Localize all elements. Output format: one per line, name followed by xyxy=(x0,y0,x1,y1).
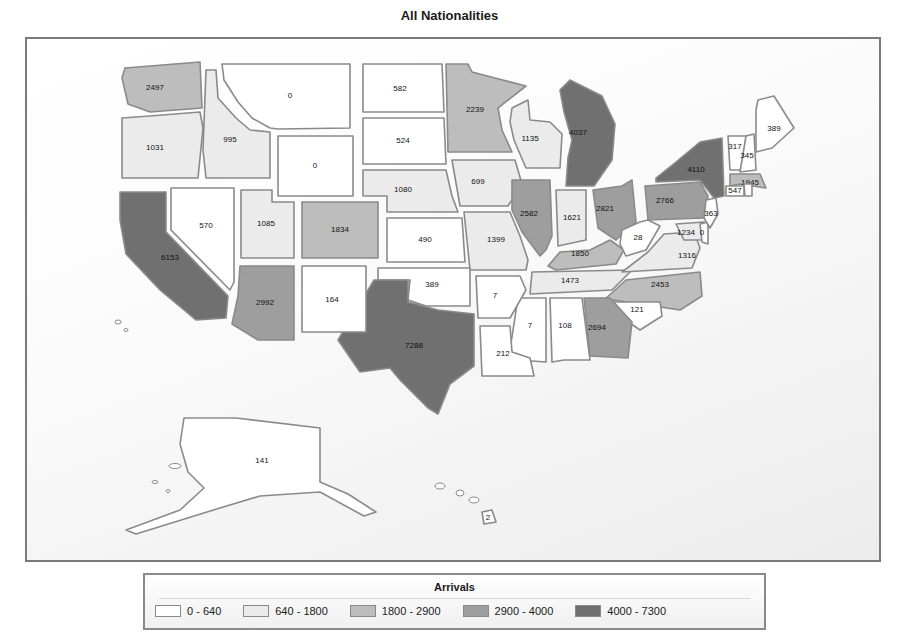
state-wa: 2497 xyxy=(122,62,202,112)
legend-label: 1800 - 2900 xyxy=(382,605,441,617)
state-value-label: 1399 xyxy=(487,235,505,244)
legend-label: 640 - 1800 xyxy=(275,605,328,617)
legend-item-bin-3: 2900 - 4000 xyxy=(463,605,554,617)
state-value-label: 345 xyxy=(740,151,754,160)
island-shape xyxy=(169,464,181,469)
state-value-label: 1085 xyxy=(257,219,275,228)
island-shape xyxy=(152,481,158,484)
state-value-label: 1316 xyxy=(678,251,696,260)
state-value-label: 363 xyxy=(704,209,718,218)
state-value-label: 582 xyxy=(393,84,407,93)
state-value-label: 28 xyxy=(634,233,643,242)
state-value-label: 2821 xyxy=(596,204,614,213)
state-mi: 4037 xyxy=(560,80,615,186)
legend-swatch xyxy=(463,605,489,617)
state-value-label: 570 xyxy=(199,221,213,230)
state-me: 389 xyxy=(756,96,794,152)
state-or: 1031 xyxy=(122,112,203,178)
state-value-label: 1135 xyxy=(521,134,539,143)
state-value-label: 108 xyxy=(558,321,572,330)
state-co: 1834 xyxy=(302,202,378,258)
legend-label: 2900 - 4000 xyxy=(495,605,554,617)
state-sd: 524 xyxy=(363,118,446,164)
state-ak: 141 xyxy=(126,418,376,534)
state-value-label: 0 xyxy=(288,91,293,100)
state-ut: 1085 xyxy=(241,190,294,258)
state-shape xyxy=(222,64,350,129)
state-value-label: 7 xyxy=(493,291,498,300)
legend-items: 0 - 640 640 - 1800 1800 - 2900 2900 - 40… xyxy=(155,605,688,617)
state-value-label: 7288 xyxy=(405,341,423,350)
island-shape xyxy=(124,329,128,332)
state-wi: 1135 xyxy=(510,100,562,168)
legend-item-bin-4: 4000 - 7300 xyxy=(575,605,666,617)
state-value-label: 1031 xyxy=(146,143,164,152)
state-ks: 490 xyxy=(387,218,465,262)
legend-swatch xyxy=(155,605,181,617)
island-shape xyxy=(115,320,121,324)
state-value-label: 0 xyxy=(700,228,705,237)
us-choropleth-map: 2497103199500582524108049022396991399113… xyxy=(0,0,899,570)
legend-divider xyxy=(159,598,750,599)
state-value-label: 524 xyxy=(396,136,410,145)
island-shape xyxy=(166,490,170,493)
state-value-label: 1473 xyxy=(561,276,579,285)
state-value-label: 1850 xyxy=(571,249,589,258)
legend-item-bin-1: 640 - 1800 xyxy=(243,605,328,617)
state-value-label: 2992 xyxy=(256,298,274,307)
state-mt: 0 xyxy=(222,64,350,129)
legend-item-bin-2: 1800 - 2900 xyxy=(350,605,441,617)
legend-item-bin-0: 0 - 640 xyxy=(155,605,221,617)
island-shape xyxy=(456,490,464,496)
state-az: 2992 xyxy=(232,266,294,340)
state-value-label: 4110 xyxy=(687,165,705,174)
state-shape xyxy=(744,184,752,196)
state-value-label: 2 xyxy=(486,513,491,522)
island-shape xyxy=(435,483,445,489)
state-value-label: 389 xyxy=(425,280,439,289)
state-value-label: 547 xyxy=(728,186,742,195)
legend-swatch xyxy=(243,605,269,617)
state-value-label: 1621 xyxy=(563,213,581,222)
state-shape xyxy=(645,182,708,220)
state-wy: 0 xyxy=(278,136,353,196)
state-pa: 2766 xyxy=(645,182,708,220)
legend-label: 4000 - 7300 xyxy=(607,605,666,617)
state-value-label: 995 xyxy=(223,135,237,144)
state-hi: 2 xyxy=(482,510,496,524)
state-value-label: 490 xyxy=(418,235,432,244)
state-value-label: 6153 xyxy=(161,253,179,262)
state-value-label: 0 xyxy=(313,161,318,170)
state-value-label: 1834 xyxy=(331,225,349,234)
state-value-label: 2694 xyxy=(588,323,606,332)
state-ri xyxy=(744,184,752,196)
state-value-label: 2766 xyxy=(656,196,674,205)
legend-label: 0 - 640 xyxy=(187,605,221,617)
state-value-label: 1234 xyxy=(677,228,695,237)
legend: Arrivals 0 - 640 640 - 1800 1800 - 2900 … xyxy=(143,573,766,630)
state-value-label: 164 xyxy=(325,295,339,304)
state-value-label: 2497 xyxy=(146,83,164,92)
state-al: 108 xyxy=(550,298,590,362)
state-value-label: 121 xyxy=(630,305,644,314)
state-value-label: 7 xyxy=(528,321,533,330)
state-value-label: 699 xyxy=(471,177,485,186)
legend-swatch xyxy=(350,605,376,617)
state-value-label: 4037 xyxy=(569,128,587,137)
legend-title: Arrivals xyxy=(145,581,764,593)
state-ct: 547 xyxy=(726,186,744,196)
legend-swatch xyxy=(575,605,601,617)
state-nd: 582 xyxy=(363,64,444,112)
state-value-label: 389 xyxy=(767,124,781,133)
state-value-label: 2239 xyxy=(466,105,484,114)
state-value-label: 2582 xyxy=(520,209,538,218)
state-value-label: 317 xyxy=(728,142,742,151)
state-value-label: 212 xyxy=(496,349,510,358)
island-shape xyxy=(469,497,479,503)
state-value-label: 1080 xyxy=(394,185,412,194)
state-shape xyxy=(126,418,376,534)
state-nm: 164 xyxy=(302,266,366,332)
state-in: 1621 xyxy=(556,190,586,246)
state-value-label: 2453 xyxy=(651,280,669,289)
state-value-label: 141 xyxy=(255,456,269,465)
